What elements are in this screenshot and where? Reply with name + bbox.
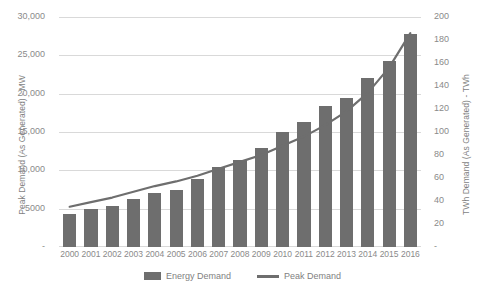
bar-slot (102, 17, 123, 247)
y-axis-right-tick-label: 40 (434, 196, 444, 205)
bar-series-energy-demand (59, 17, 421, 247)
y-axis-left-tick-label: - (42, 242, 45, 251)
bar (383, 61, 396, 247)
y-axis-right-tick-label: 180 (434, 35, 449, 44)
x-axis-tick-label: 2000 (59, 249, 80, 259)
y-axis-right-tick-label: - (434, 242, 437, 251)
y-axis-right-ticks: -20406080100120140160180200 (428, 0, 468, 290)
bar (191, 179, 204, 247)
bar-slot (272, 17, 293, 247)
y-axis-right-tick-label: 200 (434, 12, 449, 21)
bar (340, 98, 353, 247)
bar-slot (165, 17, 186, 247)
bar-slot (208, 17, 229, 247)
bar (233, 160, 246, 247)
bar-slot (187, 17, 208, 247)
x-axis-tick-label: 2004 (144, 249, 165, 259)
y-axis-right-tick-label: 80 (434, 150, 444, 159)
x-axis-tick-label: 2001 (80, 249, 101, 259)
x-axis-tick-label: 2013 (336, 249, 357, 259)
bar (170, 190, 183, 247)
y-axis-left-tick-label: 15,000 (17, 127, 45, 136)
bar (319, 106, 332, 247)
chart-container: Peak Demand (As Generated) - MW TWh Dema… (0, 0, 485, 290)
legend-label-peak-demand: Peak Demand (284, 271, 341, 281)
y-axis-right-tick-label: 140 (434, 81, 449, 90)
y-axis-right-tick-label: 160 (434, 58, 449, 67)
y-axis-left-tick-label: 25,000 (17, 50, 45, 59)
bar (63, 214, 76, 247)
bar-slot (251, 17, 272, 247)
y-axis-left-tick-label: 20,000 (17, 89, 45, 98)
bar (404, 34, 417, 247)
bar-slot (59, 17, 80, 247)
bar (276, 132, 289, 247)
bar (297, 122, 310, 247)
x-axis-tick-label: 2007 (208, 249, 229, 259)
bar (212, 167, 225, 247)
y-axis-right-tick-label: 120 (434, 104, 449, 113)
x-axis-tick-label: 2012 (315, 249, 336, 259)
bar-slot (357, 17, 378, 247)
y-axis-right-tick-label: 20 (434, 219, 444, 228)
bar (148, 193, 161, 247)
bar-slot (336, 17, 357, 247)
x-axis-tick-label: 2015 (378, 249, 399, 259)
plot-area (59, 17, 421, 247)
x-axis-tick-label: 2014 (357, 249, 378, 259)
bar (106, 206, 119, 247)
x-axis-tick-label: 2009 (251, 249, 272, 259)
x-axis-tick-label: 2010 (272, 249, 293, 259)
x-axis-labels: 2000200120022003200420052006200720082009… (59, 249, 421, 259)
x-axis-tick-label: 2002 (102, 249, 123, 259)
bar-slot (80, 17, 101, 247)
x-axis-tick-label: 2005 (165, 249, 186, 259)
bar (84, 209, 97, 247)
bar (127, 199, 140, 247)
bar-slot (144, 17, 165, 247)
x-axis-tick-label: 2003 (123, 249, 144, 259)
bar (255, 148, 268, 247)
legend-item-energy-demand: Energy Demand (144, 271, 231, 281)
bar-slot (315, 17, 336, 247)
legend-item-peak-demand: Peak Demand (257, 271, 341, 281)
bar-slot (378, 17, 399, 247)
x-axis-tick-label: 2006 (187, 249, 208, 259)
legend-label-energy-demand: Energy Demand (166, 271, 231, 281)
line-swatch-icon (257, 275, 279, 278)
x-axis-tick-label: 2011 (293, 249, 314, 259)
y-axis-left-tick-label: 5000 (25, 204, 45, 213)
bar-slot (400, 17, 421, 247)
y-axis-right-tick-label: 60 (434, 173, 444, 182)
x-axis-tick-label: 2008 (229, 249, 250, 259)
bar-slot (293, 17, 314, 247)
x-axis-tick-label: 2016 (400, 249, 421, 259)
chart-legend: Energy Demand Peak Demand (0, 271, 485, 281)
y-axis-right-tick-label: 100 (434, 127, 449, 136)
bar-slot (123, 17, 144, 247)
y-axis-left-tick-label: 30,000 (17, 12, 45, 21)
bar-swatch-icon (144, 272, 161, 280)
bar-slot (229, 17, 250, 247)
bar (361, 78, 374, 247)
y-axis-left-tick-label: 10,000 (17, 165, 45, 174)
y-axis-left-ticks: -500010,00015,00020,00025,00030,000 (0, 0, 55, 290)
